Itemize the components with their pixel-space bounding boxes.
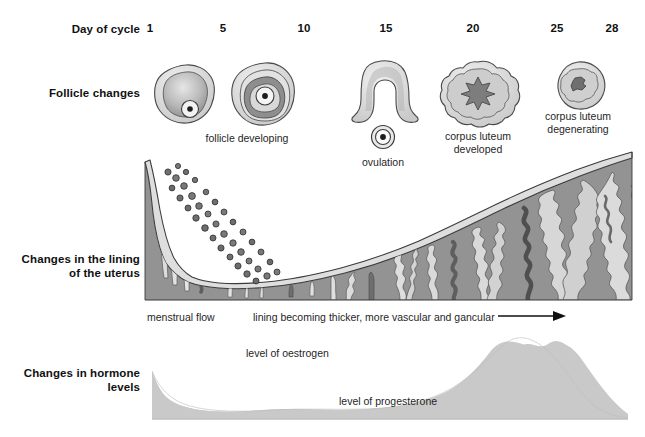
menstrual-flow-particles — [165, 163, 280, 284]
caption-corpus-luteum-developed: corpus luteum developed — [430, 130, 526, 155]
caption-corpus-luteum-degenerating-line1: corpus luteum — [545, 110, 611, 122]
caption-corpus-luteum-developed-line1: corpus luteum — [445, 130, 511, 142]
follicle-changes-label: Follicle changes — [20, 86, 140, 100]
menstrual-cycle-diagram: Day of cycle Follicle changes Changes in… — [0, 0, 645, 437]
caption-corpus-luteum-developed-line2: developed — [454, 143, 502, 155]
day-tick-20: 20 — [467, 22, 480, 34]
uterus-row-label-line2: of the uterus — [69, 267, 140, 279]
follicle-stage-developing — [232, 63, 295, 125]
day-tick-10: 10 — [298, 22, 311, 34]
day-tick-1: 1 — [147, 22, 153, 34]
annotation-lining-thickening: lining becoming thicker, more vascular a… — [253, 311, 495, 323]
day-tick-28: 28 — [606, 22, 619, 34]
caption-corpus-luteum-degenerating-line2: degenerating — [547, 123, 608, 135]
annotation-level-of-progesterone: level of progesterone — [339, 395, 437, 407]
hormone-row-label: Changes in hormone levels — [8, 366, 140, 394]
hormone-row-label-line1: Changes in hormone — [24, 367, 140, 379]
day-tick-25: 25 — [551, 22, 564, 34]
caption-corpus-luteum-degenerating: corpus luteum degenerating — [530, 110, 626, 135]
follicle-stage-corpus-luteum-developed — [440, 61, 519, 127]
uterus-row-label: Changes in the lining of the uterus — [8, 252, 140, 280]
caption-ovulation: ovulation — [362, 156, 404, 169]
day-of-cycle-label: Day of cycle — [20, 22, 140, 36]
follicle-stage-primary — [155, 65, 215, 123]
annotation-menstrual-flow: menstrual flow — [147, 311, 215, 323]
uterus-row-label-line1: Changes in the lining — [22, 253, 140, 265]
follicle-stage-corpus-luteum-degenerating — [558, 62, 605, 109]
hormone-row-label-line2: levels — [107, 381, 140, 393]
day-tick-15: 15 — [380, 22, 393, 34]
day-tick-5: 5 — [220, 22, 226, 34]
lining-thickening-arrow-icon — [498, 311, 566, 321]
annotation-level-of-oestrogen: level of oestrogen — [246, 347, 329, 359]
caption-follicle-developing: follicle developing — [206, 132, 289, 145]
endometrium-diagram — [145, 152, 636, 300]
follicle-stage-ovulation — [352, 61, 418, 149]
